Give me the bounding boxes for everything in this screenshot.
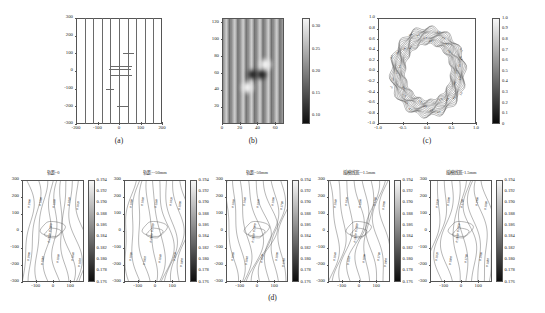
panel-d-colorbar-tick-label: 0.180: [403, 257, 413, 262]
panel-d-ytick-mark: [225, 214, 228, 215]
panel-d-ytick-mark: [21, 180, 24, 181]
panel-d-contour-label: 0.1820: [435, 198, 440, 208]
panel-d-xtick-mark: [257, 280, 258, 283]
panel-d-ytick-label: -200: [1, 262, 19, 267]
panel-d-contour-label: 0.1880: [40, 255, 45, 265]
panel-d-ytick-mark: [21, 197, 24, 198]
panel-d-ytick-label: 100: [409, 211, 427, 216]
panel-d-ytick-mark: [327, 265, 330, 266]
panel-d-contour-label: 0.1820: [77, 257, 82, 267]
panel-d-colorbar-d4: [394, 180, 401, 282]
panel-d-colorbar-tick-label: 0.192: [97, 189, 107, 194]
panel-d-ytick-mark: [21, 282, 24, 283]
panel-d-ytick-label: 100: [103, 211, 121, 216]
panel-d-colorbar-tick-label: 0.186: [199, 223, 209, 228]
panel-d-ytick-mark: [123, 248, 126, 249]
panel-d-contour-label: 0.1840: [154, 198, 159, 208]
panel-d-ytick-label: 300: [409, 177, 427, 182]
panel-d-contour-label: 0.1880: [128, 251, 133, 261]
panel-d-colorbar-tick-label: 0.194: [505, 178, 515, 183]
panel-d-ytick-label: 300: [307, 177, 325, 182]
panel-d-plot-area-d2: 0.18800.18600.18400.18200.18000.17800.19…: [124, 180, 186, 282]
panel-d-ytick-mark: [429, 180, 432, 181]
panel-d-ytick-mark: [225, 180, 228, 181]
panel-d-ytick-label: -100: [1, 245, 19, 250]
panel-d-contour-label: 0.1840: [157, 253, 162, 263]
panel-d-contour-label: 0.1800: [448, 255, 453, 265]
panel-d-ytick-mark: [225, 231, 228, 232]
panel-d-contour-label: 0.1820: [172, 251, 177, 261]
panel-d-subplot-title: 摇模线宽=-1.5mm: [316, 171, 402, 175]
panel-d-ytick-label: 300: [1, 177, 19, 182]
panel-d-colorbar-tick-label: 0.186: [97, 223, 107, 228]
panel-d-ytick-label: 100: [205, 211, 223, 216]
panel-d-ytick-label: 100: [1, 211, 19, 216]
panel-d-contour-label: 0.1860: [140, 196, 145, 206]
panel-d-contour-label: 0.1880: [354, 223, 359, 233]
panel-d-colorbar-tick-label: 0.180: [199, 257, 209, 262]
panel-d-xtick-mark: [172, 280, 173, 283]
panel-d-ytick-label: -200: [307, 262, 325, 267]
panel-d-colorbar-tick-label: 0.192: [505, 189, 515, 194]
panel-d-contour-lines-d3: 0.18600.18400.18200.18000.17800.19000.18…: [227, 181, 288, 282]
panel-d-contour-label: 0.1900: [475, 196, 480, 206]
panel-d-ytick-mark: [21, 248, 24, 249]
panel-d-colorbar-tick-label: 0.192: [199, 189, 209, 194]
panel-d-colorbar-tick-label: 0.184: [505, 234, 515, 239]
panel-d-colorbar-tick-label: 0.190: [97, 200, 107, 205]
panel-d-ytick-label: 200: [409, 194, 427, 199]
panel-d-ytick-mark: [429, 282, 432, 283]
panel-d-ytick-mark: [123, 231, 126, 232]
panel-d-ytick-label: 300: [103, 177, 121, 182]
panel-d-xtick-mark: [461, 280, 462, 283]
panel-d-ytick-mark: [123, 197, 126, 198]
panel-d-colorbar-tick-label: 0.178: [403, 268, 413, 273]
panel-d-contour-label: 0.1820: [256, 198, 261, 208]
panel-d-plot-area-d5: 0.18200.18000.17800.19000.18800.18600.18…: [430, 180, 492, 282]
panel-d-contour-label: 0.1880: [251, 233, 256, 243]
panel-d-contour-label: 0.1860: [456, 223, 461, 233]
panel-d-contour-label: 0.1840: [455, 233, 460, 243]
panel-d-colorbar-tick-label: 0.180: [505, 257, 515, 262]
panel-d-xtick-mark: [53, 280, 54, 283]
panel-d-xtick-label: 100: [467, 284, 489, 289]
panel-d-ytick-mark: [225, 265, 228, 266]
panel-d-colorbar-d2: [190, 180, 197, 282]
panel-d-contour-label: 0.1780: [373, 196, 378, 206]
panel-d-contour-label: 0.1820: [75, 200, 80, 210]
panel-d-xtick-mark: [70, 280, 71, 283]
panel-d-ytick-mark: [21, 214, 24, 215]
panel-d-xtick-mark: [138, 280, 139, 283]
panel-d-ytick-label: 0: [409, 228, 427, 233]
panel-d-ytick-label: 0: [307, 228, 325, 233]
panel-d-contour-label: 0.1800: [274, 251, 279, 261]
panel-d-contour-label: 0.1820: [344, 196, 349, 206]
panel-d-xtick-mark: [478, 280, 479, 283]
panel-d-plot-area-d4: 0.18400.18200.18000.17800.19000.18800.18…: [328, 180, 390, 282]
panel-d-ytick-label: 300: [205, 177, 223, 182]
panel-d-colorbar-tick-label: 0.184: [301, 234, 311, 239]
panel-d-contour-label: 0.1900: [252, 223, 257, 233]
panel-d-ytick-mark: [429, 265, 432, 266]
panel-d-label: (d): [253, 293, 293, 302]
panel-d-colorbar-tick-label: 0.184: [97, 234, 107, 239]
panel-d-contour-lines-d4: 0.18400.18200.18000.17800.19000.18800.18…: [329, 181, 390, 282]
panel-d-colorbar-tick-label: 0.178: [505, 268, 515, 273]
panel-d-colorbar-tick-label: 0.192: [301, 189, 311, 194]
panel-d-ytick-label: -100: [205, 245, 223, 250]
panel-d-contour-label: 0.1820: [169, 196, 174, 206]
panel-d-ytick-label: -300: [103, 279, 121, 284]
panel-d-xtick-label: 100: [263, 284, 285, 289]
panel-d-ytick-mark: [123, 180, 126, 181]
panel-d-contour-label: 0.1820: [434, 251, 439, 261]
panel-d-ytick-mark: [327, 282, 330, 283]
panel-d-xtick-mark: [274, 280, 275, 283]
panel-d-ytick-label: -100: [307, 245, 325, 250]
panel-d-contour-label: 0.1780: [150, 223, 155, 233]
panel-d-xtick-mark: [376, 280, 377, 283]
panel-d-xtick-mark: [240, 280, 241, 283]
panel-d-contour-label: 0.1840: [70, 251, 75, 261]
panel-d-colorbar-tick-label: 0.190: [403, 200, 413, 205]
panel-d-colorbar-tick-label: 0.180: [301, 257, 311, 262]
panel-d-ytick-mark: [21, 231, 24, 232]
